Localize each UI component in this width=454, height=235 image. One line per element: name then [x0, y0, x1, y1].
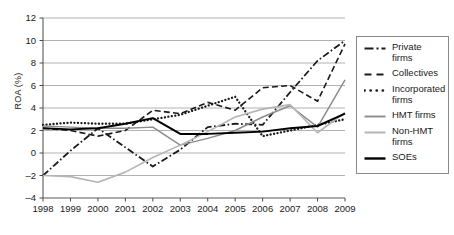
legend-swatch-icon	[364, 85, 386, 96]
legend-item: Non-HMT firms	[364, 126, 442, 147]
legend-item: HMT firms	[364, 110, 442, 122]
legend-label: Private firms	[392, 42, 442, 63]
legend-item: Collectives	[364, 68, 442, 80]
legend-label: HMT firms	[392, 110, 436, 121]
legend-line-sample	[364, 85, 386, 96]
legend-line-sample	[364, 43, 386, 54]
y-tick-label: –4	[10, 194, 36, 202]
legend-swatch-icon	[364, 153, 386, 164]
legend-swatch-icon	[364, 69, 386, 80]
x-tick-label: 2008	[303, 204, 333, 214]
legend-label: Non-HMT firms	[392, 126, 442, 147]
series-line	[43, 105, 345, 183]
y-tick-marks	[40, 18, 44, 198]
legend-label: SOEs	[392, 152, 417, 163]
x-tick-label: 2007	[275, 204, 305, 214]
y-tick-label: 10	[10, 37, 36, 45]
legend-swatch-icon	[364, 111, 386, 122]
x-tick-label: 1999	[55, 204, 85, 214]
x-tick-label: 2002	[138, 204, 168, 214]
legend-item: Private firms	[364, 42, 442, 63]
y-tick-label: 6	[10, 82, 36, 90]
legend-label: Collectives	[392, 68, 438, 79]
legend-label: Incorporated firms	[392, 84, 445, 105]
x-tick-label: 2000	[83, 204, 113, 214]
y-tick-label: –2	[10, 172, 36, 180]
legend-swatch-icon	[364, 127, 386, 138]
legend-line-sample	[364, 69, 386, 80]
series-non-hmt-firms	[43, 105, 345, 183]
x-tick-label: 2006	[248, 204, 278, 214]
legend-swatch-icon	[364, 43, 386, 54]
y-tick-label: 4	[10, 104, 36, 112]
legend-line-sample	[364, 111, 386, 122]
x-tick-label: 2001	[110, 204, 140, 214]
chart-figure: ROA (%) –4–2024681012 199819992000200120…	[0, 0, 454, 235]
y-tick-label: 0	[10, 149, 36, 157]
y-tick-label: 2	[10, 127, 36, 135]
x-tick-marks	[43, 198, 345, 202]
legend-item: SOEs	[364, 152, 442, 164]
x-tick-label: 2009	[330, 204, 360, 214]
legend-line-sample	[364, 127, 386, 138]
x-tick-label: 2004	[193, 204, 223, 214]
legend-item: Incorporated firms	[364, 84, 442, 105]
x-tick-label: 1998	[28, 204, 58, 214]
legend-line-sample	[364, 153, 386, 164]
x-tick-label: 2005	[220, 204, 250, 214]
y-tick-label: 12	[10, 14, 36, 22]
chart-legend: Private firmsCollectivesIncorporated fir…	[356, 36, 449, 174]
y-tick-label: 8	[10, 59, 36, 67]
x-tick-label: 2003	[165, 204, 195, 214]
